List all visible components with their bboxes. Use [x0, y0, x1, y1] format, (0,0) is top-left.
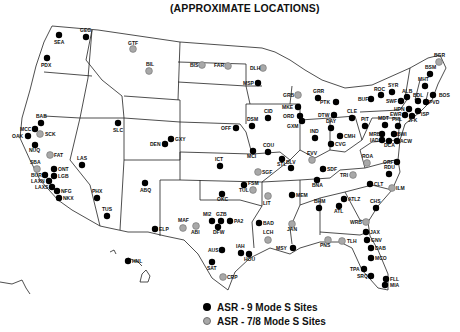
- black-dot-icon: [368, 245, 374, 251]
- site-label: MSP: [243, 80, 255, 86]
- site-sgf: SGF: [255, 169, 273, 176]
- site-pdx: PDX: [41, 55, 52, 68]
- site-label: SCK: [45, 131, 56, 137]
- site-gxm: GXM: [287, 118, 305, 129]
- gray-dot-icon: [225, 63, 232, 70]
- site-label: BIL: [146, 61, 154, 67]
- site-bad: BAD: [256, 220, 274, 226]
- site-label: CLT: [374, 181, 383, 187]
- black-dot-icon: [56, 195, 62, 201]
- site-gtf: GTF: [128, 40, 138, 52]
- black-dot-icon: [168, 136, 174, 142]
- site-iad: IAD: [370, 137, 385, 143]
- site-far: FAR: [214, 62, 231, 69]
- site-label: GZB: [216, 211, 227, 217]
- gray-dot-icon: [255, 169, 262, 176]
- black-dot-icon: [333, 99, 339, 105]
- site-cvg: CVG: [328, 141, 346, 147]
- site-label: MDT: [378, 115, 389, 121]
- gray-dot-icon: [339, 238, 346, 245]
- site-hnl: HNL: [125, 258, 142, 264]
- legend: ASR - 9 Mode S Sites ASR - 7/8 Mode S Si…: [203, 300, 326, 328]
- site-label: GEG: [80, 27, 91, 33]
- black-dot-icon: [289, 192, 295, 198]
- black-dot-icon: [312, 135, 318, 141]
- site-label: MAF: [178, 217, 189, 223]
- legend-item-asr9: ASR - 9 Mode S Sites: [203, 300, 326, 314]
- black-dot-icon: [383, 276, 389, 282]
- site-label: ILM: [396, 185, 405, 191]
- site-label: GXY: [175, 136, 186, 142]
- site-roc: ROC: [374, 86, 386, 98]
- site-label: PNS: [320, 242, 331, 248]
- site-label: TPA: [350, 266, 360, 272]
- site-las: LAS: [77, 155, 88, 168]
- black-dot-icon: [152, 226, 158, 232]
- site-label: ROA: [362, 153, 374, 159]
- site-gxy: GXY: [168, 136, 186, 142]
- site-slc: SLC: [113, 120, 123, 133]
- site-laxs: LAXS: [35, 184, 55, 190]
- black-dot-icon: [364, 237, 370, 243]
- gray-dot-icon: [295, 92, 302, 99]
- site-fsm: FSM: [248, 180, 259, 193]
- black-dot-icon: [256, 220, 262, 226]
- site-label: PA2: [234, 218, 244, 224]
- site-label: PHL: [392, 116, 402, 122]
- site-label: SBA: [30, 159, 41, 165]
- site-label: PDX: [41, 62, 52, 68]
- site-sea: SEA: [54, 32, 65, 45]
- site-label: SEA: [54, 39, 65, 45]
- site-mco: MCO: [368, 255, 387, 261]
- site-label: DLH: [250, 65, 261, 71]
- site-label: ELP: [159, 226, 169, 232]
- site-ord: ORD: [283, 113, 303, 119]
- gray-dot-icon: [203, 317, 211, 325]
- gray-dot-icon: [180, 225, 187, 232]
- site-syr: SYR: [388, 82, 399, 95]
- site-label: HNL: [132, 258, 142, 264]
- site-alb: ALB: [402, 88, 413, 100]
- site-label: CMH: [344, 133, 356, 139]
- site-ptk: PTK: [320, 99, 339, 105]
- site-pa2: PA2: [227, 218, 244, 224]
- site-cmh: CMH: [337, 133, 356, 139]
- site-mia: MIA: [382, 282, 400, 288]
- site-label: EVV: [307, 150, 318, 156]
- site-label: BLV: [286, 159, 296, 165]
- site-nfg: NFG: [54, 188, 72, 194]
- site-label: BWI: [397, 131, 407, 137]
- site-label: MIA: [390, 282, 400, 288]
- black-dot-icon: [115, 120, 121, 126]
- site-pvd: PVD: [423, 99, 440, 105]
- site-label: SDF: [327, 166, 337, 172]
- site-label: PHX: [92, 188, 103, 194]
- site-evv: EVV: [307, 150, 318, 163]
- site-bdl: BDL: [413, 92, 423, 104]
- site-label: TRI: [340, 172, 349, 178]
- black-dot-icon: [395, 123, 401, 129]
- site-label: FAR: [214, 62, 224, 68]
- site-srq: SRQ: [357, 273, 374, 279]
- site-label: MCC: [20, 126, 32, 132]
- black-dot-icon: [382, 282, 388, 288]
- black-dot-icon: [290, 245, 296, 251]
- gray-dot-icon: [220, 274, 227, 281]
- site-label: DCA: [384, 142, 395, 148]
- site-label: SRQ: [357, 273, 368, 279]
- site-label: DAY: [326, 118, 337, 124]
- site-bos: BOS: [430, 92, 451, 98]
- black-dot-icon: [288, 165, 294, 171]
- site-label: NUQ: [29, 147, 40, 153]
- site-hou: HOU: [244, 251, 256, 262]
- gray-dot-icon: [265, 237, 272, 244]
- site-label: SYR: [388, 82, 399, 88]
- site-bis: BIS: [190, 62, 205, 69]
- site-lit: LIT: [263, 193, 271, 206]
- site-label: TUL: [239, 187, 249, 193]
- site-label: HOU: [244, 256, 256, 262]
- site-label: LIT: [263, 200, 271, 206]
- site-bab: BAB: [36, 113, 47, 126]
- site-msp: MSP: [243, 80, 261, 86]
- black-dot-icon: [217, 163, 223, 169]
